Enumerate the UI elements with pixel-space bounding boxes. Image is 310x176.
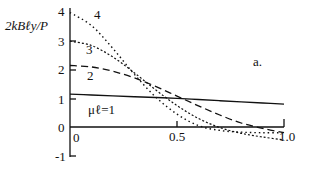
y-tick-label-2: 2 [58, 63, 65, 76]
panel-label: a. [253, 55, 262, 68]
x-tick-label-0.5: 0.5 [169, 130, 185, 143]
x-tick-label-1.0: 1.0 [279, 130, 295, 143]
y-axis-label: 2kBℓy/P [5, 19, 48, 32]
curve-label-3: 3 [86, 43, 93, 56]
curve-label-4: 4 [94, 8, 101, 21]
y-tick-label-3: 3 [58, 35, 65, 48]
y-tick-label-0: 0 [58, 121, 65, 134]
y-tick-label--1: -1 [55, 150, 66, 163]
curves [70, 13, 284, 140]
curve-label-2: 2 [87, 69, 94, 82]
y-tick-label-4: 4 [58, 5, 65, 18]
x-tick-label-0: 0 [73, 131, 80, 144]
y-tick-label-1: 1 [58, 93, 65, 106]
curve-label-1: μℓ=1 [88, 103, 115, 116]
